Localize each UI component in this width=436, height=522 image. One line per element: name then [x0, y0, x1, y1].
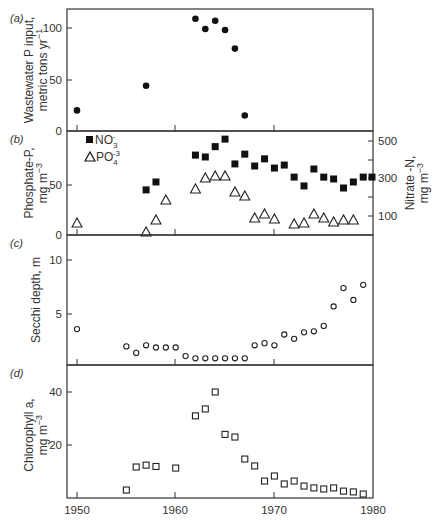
data-point-open-square	[252, 463, 258, 469]
data-point-triangle	[338, 215, 348, 224]
data-point-open-square	[331, 485, 337, 491]
data-point-triangle	[289, 219, 299, 228]
data-point-circle	[222, 27, 229, 34]
data-point-square	[261, 155, 268, 162]
data-point-square	[212, 143, 219, 150]
ytick-a-100: 100	[43, 22, 62, 34]
panel-c-yticks: 10 5	[49, 254, 72, 320]
ytick-b-0: 0	[56, 229, 62, 241]
data-point-square	[271, 165, 278, 172]
data-point-open-circle	[232, 356, 237, 361]
data-point-open-circle	[203, 356, 208, 361]
multi-panel-chart: (a) 100 50 0 Wastewater P input, metric …	[0, 0, 436, 522]
xtick-1950: 1950	[64, 504, 90, 516]
data-point-square	[152, 178, 159, 185]
data-point-triangle	[250, 213, 260, 222]
data-point-circle	[192, 15, 199, 22]
data-point-open-square	[311, 485, 317, 491]
data-point-open-square	[212, 389, 218, 395]
svg-text:Secchi depth, m: Secchi depth, m	[29, 257, 43, 343]
data-point-open-square	[153, 463, 159, 469]
data-point-square	[369, 174, 376, 181]
data-point-open-square	[202, 406, 208, 412]
data-point-triangle	[309, 209, 319, 218]
data-point-square	[192, 152, 199, 159]
data-point-circle	[74, 107, 81, 114]
panel-d-ylabel: Chlorophyll a,	[22, 398, 36, 471]
data-point-open-circle	[242, 356, 247, 361]
data-point-triangle	[319, 213, 329, 222]
ytick-b-100: 100	[378, 210, 397, 222]
data-point-square	[320, 174, 327, 181]
data-point-open-square	[143, 462, 149, 468]
panel-d-label: (d)	[10, 367, 24, 379]
panel-b-legend: NO3- PO4-3	[85, 132, 120, 167]
ytick-b-300: 300	[378, 172, 397, 184]
data-point-open-square	[242, 456, 248, 462]
ytick-b-50: 50	[49, 179, 62, 191]
panel-b-ylabel: Phosphate-P,	[22, 147, 36, 218]
data-point-triangle	[200, 173, 210, 182]
data-point-open-circle	[222, 356, 227, 361]
svg-text:mg m−3: mg m−3	[415, 163, 431, 203]
legend-no3-label: NO3-	[95, 132, 118, 150]
data-point-square	[330, 175, 337, 182]
data-point-triangle	[260, 209, 270, 218]
data-point-square	[301, 182, 308, 189]
panel-d: (d) 40 20 1950 1960 1970 1980 Chlorophyl…	[10, 365, 386, 516]
ytick-d-20: 20	[49, 439, 62, 451]
data-point-open-square	[281, 481, 287, 487]
data-point-open-circle	[301, 330, 306, 335]
panel-a-xticks	[77, 125, 274, 131]
data-point-square	[231, 160, 238, 167]
ytick-c-5: 5	[56, 308, 62, 320]
data-point-square	[340, 185, 347, 192]
svg-text:Chlorophyll a,: Chlorophyll a,	[22, 398, 36, 471]
panel-a: (a) 100 50 0 Wastewater P input, metric …	[10, 9, 373, 137]
panel-a-ylabel-line2: metric tons yr−1	[34, 29, 50, 111]
legend-no3-marker	[86, 136, 93, 143]
svg-text:metric tons yr−1: metric tons yr−1	[34, 29, 50, 111]
data-point-triangle	[72, 218, 82, 227]
data-point-circle	[202, 26, 209, 33]
data-point-open-square	[340, 488, 346, 494]
panel-b-xticks	[77, 229, 274, 235]
ytick-a-0: 0	[56, 125, 62, 137]
svg-text:mg m−3: mg m−3	[34, 163, 50, 203]
data-point-open-square	[173, 465, 179, 471]
panel-c-ylabel: Secchi depth, m	[29, 257, 43, 343]
data-point-square	[251, 163, 258, 170]
panel-a-points	[74, 15, 248, 118]
data-point-circle	[143, 82, 150, 89]
panel-c-xticks	[77, 359, 274, 365]
data-point-open-circle	[173, 345, 178, 350]
data-point-open-square	[192, 413, 198, 419]
data-point-open-circle	[153, 345, 158, 350]
data-point-open-square	[222, 431, 228, 437]
data-point-open-square	[133, 464, 139, 470]
data-point-open-circle	[331, 304, 336, 309]
svg-text:mg m−3: mg m−3	[34, 415, 50, 455]
data-point-open-square	[232, 434, 238, 440]
data-point-open-circle	[163, 345, 168, 350]
data-point-open-circle	[74, 327, 79, 332]
xtick-1960: 1960	[162, 504, 188, 516]
data-point-triangle	[299, 218, 309, 227]
data-point-square	[281, 162, 288, 169]
data-point-triangle	[269, 214, 279, 223]
panel-d-frame	[67, 365, 373, 498]
data-point-open-circle	[143, 343, 148, 348]
data-point-open-circle	[292, 336, 297, 341]
panel-d-ylabel-line2: mg m−3	[34, 415, 50, 455]
data-point-square	[350, 178, 357, 185]
panel-d-points	[123, 389, 366, 497]
data-point-triangle	[220, 171, 230, 180]
data-point-open-circle	[321, 323, 326, 328]
data-point-triangle	[151, 215, 161, 224]
panel-b-ylabel-right-line2: mg m−3	[415, 163, 431, 203]
xtick-1980: 1980	[360, 504, 386, 516]
data-point-open-circle	[193, 356, 198, 361]
data-point-open-square	[321, 486, 327, 492]
ytick-a-50: 50	[49, 74, 62, 86]
data-point-open-circle	[262, 341, 267, 346]
